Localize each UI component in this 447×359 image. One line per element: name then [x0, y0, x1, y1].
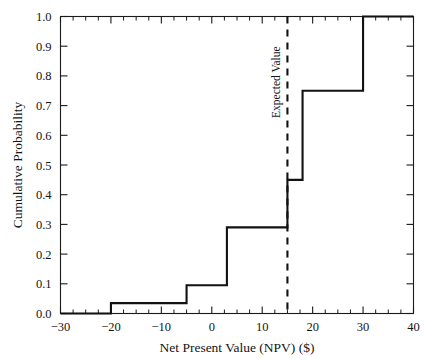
x-tick-label: 10 — [256, 320, 269, 334]
x-axis-title: Net Present Value (NPV) ($) — [160, 340, 315, 355]
y-tick-label: 0.6 — [36, 129, 52, 143]
y-tick-label: 0.0 — [36, 307, 52, 321]
y-tick-label: 0.1 — [36, 277, 52, 291]
y-tick-label: 1.0 — [36, 10, 52, 24]
expected-value-label: Expected Value — [270, 46, 283, 118]
y-axis-title: Cumulative Probability — [10, 102, 25, 229]
y-tick-label: 0.4 — [36, 188, 52, 202]
chart-background — [0, 0, 447, 359]
y-tick-label: 0.8 — [36, 69, 52, 83]
y-tick-label: 0.9 — [36, 40, 52, 54]
x-tick-label: −20 — [101, 320, 121, 334]
y-tick-label: 0.2 — [36, 248, 52, 262]
x-tick-label: 20 — [306, 320, 319, 334]
x-tick-label: −10 — [152, 320, 172, 334]
x-tick-label: 40 — [407, 320, 420, 334]
x-tick-label: 0 — [209, 320, 215, 334]
y-tick-label: 0.7 — [36, 99, 52, 113]
cdf-chart: −30−20−10010203040 0.00.10.20.30.40.50.6… — [0, 0, 447, 359]
chart-canvas: −30−20−10010203040 0.00.10.20.30.40.50.6… — [0, 0, 447, 359]
y-tick-label: 0.3 — [36, 218, 52, 232]
x-tick-label: 30 — [357, 320, 370, 334]
y-tick-label: 0.5 — [36, 159, 52, 173]
x-tick-label: −30 — [51, 320, 71, 334]
